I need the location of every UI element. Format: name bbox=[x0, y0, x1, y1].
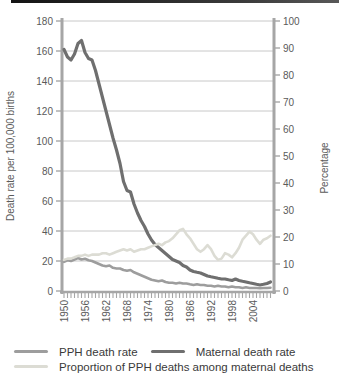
legend-row-2: Proportion of PPH deaths among maternal … bbox=[0, 359, 339, 374]
x-tick-label: 1998 bbox=[227, 300, 238, 323]
tick-labels: 0204060801001201401601800102030405060708… bbox=[36, 16, 300, 323]
right-tick-label: 100 bbox=[283, 16, 300, 27]
pph-death-rate-label: PPH death rate bbox=[59, 346, 138, 358]
left-tick-label: 180 bbox=[36, 16, 53, 27]
maternal-death-rate-swatch bbox=[151, 350, 185, 354]
proportion-swatch bbox=[14, 365, 48, 369]
x-tick-label: 1968 bbox=[122, 300, 133, 323]
chart-figure: 0204060801001201401601800102030405060708… bbox=[0, 0, 339, 383]
x-tick-label: 1980 bbox=[164, 300, 175, 323]
gridlines bbox=[62, 21, 274, 261]
maternal-death-rate-label: Maternal death rate bbox=[196, 346, 296, 358]
right-axis-title: Percentage bbox=[319, 142, 330, 194]
x-tick-label: 1956 bbox=[80, 300, 91, 323]
x-tick-label: 2004 bbox=[248, 300, 259, 323]
x-tick-label: 1992 bbox=[206, 300, 217, 323]
chart-legend: PPH death rate Maternal death rate Propo… bbox=[0, 344, 339, 374]
left-tick-label: 80 bbox=[42, 166, 54, 177]
legend-row-1: PPH death rate Maternal death rate bbox=[0, 344, 339, 359]
pph-death-rate-line bbox=[64, 258, 271, 288]
right-tick-label: 0 bbox=[283, 286, 289, 297]
right-tick-label: 40 bbox=[283, 178, 295, 189]
right-tick-label: 20 bbox=[283, 232, 295, 243]
left-tick-label: 160 bbox=[36, 46, 53, 57]
right-tick-label: 60 bbox=[283, 124, 295, 135]
right-tick-label: 80 bbox=[283, 70, 295, 81]
left-tick-label: 120 bbox=[36, 106, 53, 117]
x-tick-label: 1962 bbox=[101, 300, 112, 323]
left-tick-label: 40 bbox=[42, 226, 54, 237]
left-tick-label: 60 bbox=[42, 196, 54, 207]
right-tick-label: 50 bbox=[283, 151, 295, 162]
left-tick-label: 100 bbox=[36, 136, 53, 147]
proportion-label: Proportion of PPH deaths among maternal … bbox=[59, 361, 313, 373]
left-axis-title: Death rate per 100,000 births bbox=[5, 91, 16, 221]
left-tick-label: 0 bbox=[47, 286, 53, 297]
left-tick-label: 20 bbox=[42, 256, 54, 267]
right-tick-label: 70 bbox=[283, 97, 295, 108]
right-tick-label: 10 bbox=[283, 259, 295, 270]
x-tick-label: 1974 bbox=[143, 300, 154, 323]
right-tick-label: 90 bbox=[283, 43, 295, 54]
x-tick-label: 1950 bbox=[59, 300, 70, 323]
x-tick-label: 1986 bbox=[185, 300, 196, 323]
line-chart: 0204060801001201401601800102030405060708… bbox=[0, 0, 339, 340]
right-tick-label: 30 bbox=[283, 205, 295, 216]
pph-death-rate-swatch bbox=[14, 350, 48, 354]
data-series bbox=[64, 41, 271, 289]
left-tick-label: 140 bbox=[36, 76, 53, 87]
